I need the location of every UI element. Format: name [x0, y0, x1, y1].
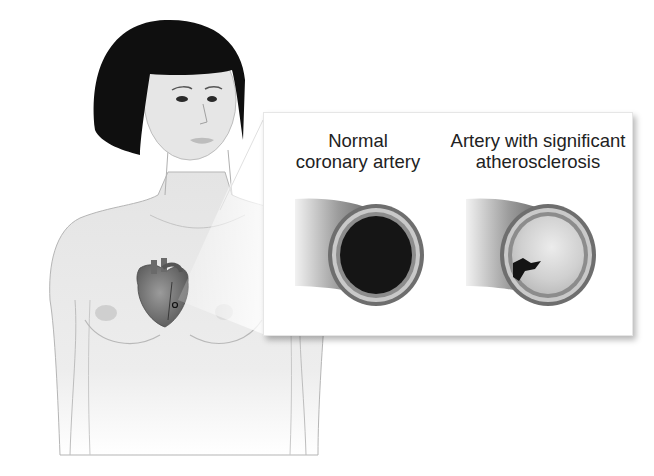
athero-label-line1: Artery with significant: [443, 130, 633, 151]
head: [94, 20, 245, 160]
athero-label-line2: atherosclerosis: [443, 151, 633, 172]
normal-artery-illustration: [295, 198, 424, 306]
normal-label-line2: coronary artery: [288, 151, 428, 172]
normal-label-line1: Normal: [288, 130, 428, 151]
atherosclerotic-artery-illustration: [466, 198, 596, 306]
normal-artery-label: Normal coronary artery: [288, 130, 428, 172]
atherosclerosis-artery-label: Artery with significant atherosclerosis: [443, 130, 633, 172]
